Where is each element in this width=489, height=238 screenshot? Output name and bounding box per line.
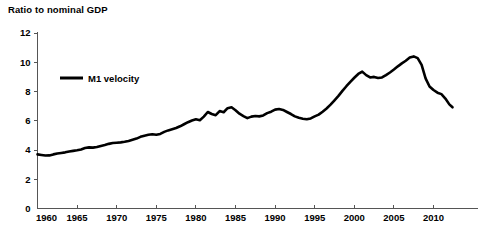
chart-plot-area: 024681012 196019651970197519801985199019… bbox=[0, 0, 489, 238]
series-line-m1-velocity bbox=[38, 56, 453, 155]
chart-legend: M1 velocity bbox=[60, 73, 140, 84]
x-tick-label: 2005 bbox=[383, 212, 405, 223]
x-tick-label: 1965 bbox=[67, 212, 89, 223]
data-series-group bbox=[38, 56, 453, 155]
x-tick-label: 1995 bbox=[304, 212, 326, 223]
x-tick-label: 2010 bbox=[423, 212, 444, 223]
x-tick-label: 1960 bbox=[36, 212, 57, 223]
y-tick-label: 0 bbox=[25, 203, 30, 214]
y-axis: 024681012 bbox=[20, 27, 38, 214]
x-tick-label: 1990 bbox=[265, 212, 286, 223]
x-tick-label: 1985 bbox=[225, 212, 247, 223]
y-tick-label: 8 bbox=[25, 86, 30, 97]
y-tick-label: 2 bbox=[25, 174, 30, 185]
y-tick-label: 6 bbox=[25, 115, 30, 126]
x-tick-label: 2000 bbox=[344, 212, 365, 223]
y-tick-label: 10 bbox=[20, 57, 31, 68]
x-axis: 1960196519701975198019851990199520002005… bbox=[36, 205, 478, 223]
legend-label-m1-velocity: M1 velocity bbox=[88, 73, 140, 84]
chart-figure: Ratio to nominal GDP 024681012 196019651… bbox=[0, 0, 489, 238]
y-tick-label: 12 bbox=[20, 27, 31, 38]
x-tick-label: 1970 bbox=[106, 212, 127, 223]
x-tick-label: 1975 bbox=[146, 212, 168, 223]
x-tick-label: 1980 bbox=[185, 212, 206, 223]
y-tick-label: 4 bbox=[25, 144, 31, 155]
